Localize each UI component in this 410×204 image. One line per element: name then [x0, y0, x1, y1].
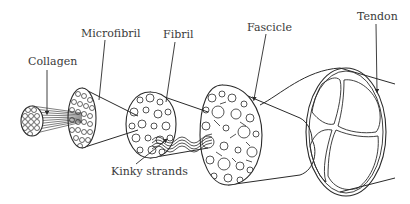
- tendon-hierarchy-diagram: Collagen Microfibril Fibril Fascicle Ten…: [0, 0, 410, 204]
- label-kinky-strands: Kinky strands: [111, 166, 188, 177]
- label-tendon: Tendon: [357, 11, 398, 22]
- label-fibril: Fibril: [163, 29, 194, 40]
- microfibril-leader: [99, 40, 105, 100]
- label-fascicle: Fascicle: [247, 22, 292, 33]
- label-collagen: Collagen: [28, 56, 77, 67]
- tendon-structure: [260, 68, 395, 196]
- tendon-leader: [376, 24, 377, 91]
- fascicle-leader: [254, 34, 266, 99]
- fibril-leader: [166, 42, 175, 102]
- label-microfibril: Microfibril: [81, 28, 141, 39]
- fascicle-structure: [200, 85, 315, 185]
- diagram-canvas: [0, 0, 410, 204]
